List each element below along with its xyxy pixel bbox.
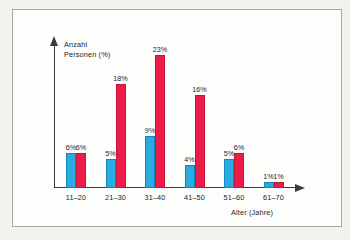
bar-value-label: 9% [145,126,156,135]
chart-page: Anzahl Personen (%) Alter (Jahre) 6%6%11… [0,0,350,240]
bar-value-label: 23% [153,45,168,54]
bar-pair: 6%6% [65,48,87,188]
bar-group: 6%6% [65,48,87,188]
bar-blue-31-40[interactable]: 9% [145,136,155,188]
bar-group: 5%6% [223,48,245,188]
bar-value-label: 16% [192,85,207,94]
bar-blue-11-20[interactable]: 6% [66,153,76,188]
bar-blue-41-50[interactable]: 4% [185,165,195,188]
bar-red-51-60[interactable]: 6% [234,153,244,188]
x-axis-title: Alter (Jahre) [231,208,273,217]
bar-red-11-20[interactable]: 6% [76,153,86,188]
x-tick-label: 61–70 [251,193,297,202]
bar-value-label: 6% [76,143,87,152]
bar-blue-61-70[interactable]: 1% [264,182,274,188]
bar-pair: 9%23% [144,48,166,188]
bar-value-label: 18% [113,74,128,83]
bar-group: 1%1% [263,48,285,188]
x-axis-line [54,187,298,188]
bar-blue-21-30[interactable]: 5% [106,159,116,188]
bar-pair: 5%18% [105,48,127,188]
x-axis-arrow-icon [295,184,305,192]
bar-group: 5%18% [105,48,127,188]
bar-red-21-30[interactable]: 18% [116,84,126,188]
bar-value-label: 1% [263,172,274,181]
bar-value-label: 5% [105,149,116,158]
y-axis-arrow-icon [50,36,58,46]
bar-red-61-70[interactable]: 1% [274,182,284,188]
y-axis-line [54,44,55,188]
chart-panel: Anzahl Personen (%) Alter (Jahre) 6%6%11… [12,9,342,227]
bar-value-label: 6% [234,143,245,152]
bar-value-label: 4% [184,155,195,164]
bar-pair: 5%6% [223,48,245,188]
bar-pair: 1%1% [263,48,285,188]
bar-group: 9%23% [144,48,166,188]
bar-value-label: 6% [66,143,77,152]
bar-pair: 4%16% [184,48,206,188]
bar-value-label: 5% [224,149,235,158]
bar-value-label: 1% [273,172,284,181]
bar-red-31-40[interactable]: 23% [155,55,165,188]
plot-area: Anzahl Personen (%) Alter (Jahre) 6%6%11… [13,10,343,228]
bar-red-41-50[interactable]: 16% [195,95,205,188]
bar-blue-51-60[interactable]: 5% [224,159,234,188]
bar-group: 4%16% [184,48,206,188]
